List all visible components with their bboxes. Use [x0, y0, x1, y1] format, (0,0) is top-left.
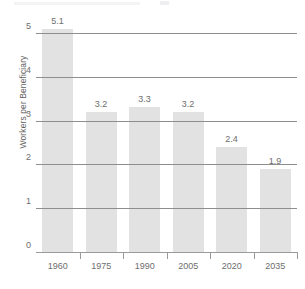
x-axis-labels: 196019751990200520202035	[36, 262, 297, 278]
bar[interactable]	[42, 29, 73, 252]
y-tick-label: 4	[26, 66, 31, 77]
y-tick-label: 1	[26, 197, 31, 208]
gridline	[36, 121, 297, 122]
x-tick-label: 2020	[210, 262, 254, 271]
x-tick-mark	[297, 252, 298, 259]
bar-slot	[123, 14, 167, 252]
x-tick-mark	[167, 252, 168, 259]
x-axis-baseline	[36, 252, 297, 253]
y-tick-label: 2	[26, 153, 31, 164]
bar-value-label: 1.9	[254, 157, 297, 166]
bar[interactable]	[260, 169, 291, 252]
x-tick-label: 1960	[36, 262, 80, 271]
bar[interactable]	[86, 112, 117, 252]
y-tick-label: 5	[26, 22, 31, 33]
bar-slot	[36, 14, 80, 252]
bar[interactable]	[129, 107, 160, 252]
x-tick-mark	[123, 252, 124, 259]
y-axis-title: Workers per Beneficiary	[18, 37, 28, 167]
gridline	[36, 77, 297, 78]
y-tick-label: 0	[26, 241, 31, 252]
bar[interactable]	[173, 112, 204, 252]
x-tick-label: 2005	[167, 262, 211, 271]
scan-artifact	[14, 2, 140, 5]
scan-artifact-secondary	[160, 1, 169, 5]
y-tick-label: 3	[26, 110, 31, 121]
gridline	[36, 33, 297, 34]
bar-slot	[210, 14, 254, 252]
x-tick-label: 2035	[254, 262, 298, 271]
bar-value-label: 2.4	[210, 135, 253, 144]
bar-value-label: 3.2	[80, 100, 123, 109]
x-tick-mark	[210, 252, 211, 259]
bar-value-label: 3.2	[167, 100, 210, 109]
bar-value-label: 3.3	[123, 95, 166, 104]
x-tick-label: 1990	[123, 262, 167, 271]
bar-slot	[254, 14, 298, 252]
plot-area: 012345 5.13.23.33.22.41.9	[36, 14, 297, 252]
x-tick-label: 1975	[80, 262, 124, 271]
x-axis-ticks	[36, 252, 297, 260]
bar[interactable]	[216, 147, 247, 252]
bar-value-label: 5.1	[36, 17, 79, 26]
gridline	[36, 208, 297, 209]
bar-slot	[80, 14, 124, 252]
bar-chart: Workers per Beneficiary 012345 5.13.23.3…	[0, 0, 305, 289]
bars-layer	[36, 14, 297, 252]
x-tick-mark	[80, 252, 81, 259]
bar-slot	[167, 14, 211, 252]
x-tick-mark	[254, 252, 255, 259]
